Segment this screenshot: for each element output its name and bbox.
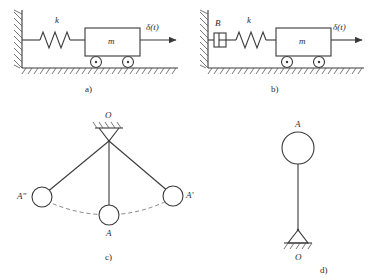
panel-c-bob-right-label: A′: [186, 191, 193, 200]
panel-a-spring-label: k: [55, 16, 59, 25]
panel-b-mass-label: m: [299, 37, 306, 46]
panel-b-force-label: δ(t): [333, 23, 346, 32]
panel-c-pivot-label: O: [105, 111, 112, 120]
panel-b-drawing: [200, 10, 364, 74]
panel-d-caption: d): [320, 266, 328, 275]
panel-b-caption: b): [271, 85, 279, 94]
panel-b-wheels: [282, 57, 325, 68]
panel-a-ground-hatching: [22, 68, 176, 74]
panel-d-drawing: [282, 132, 314, 249]
panel-b-damper-label: B: [215, 19, 221, 28]
panel-a-force-label: δ(t): [146, 23, 159, 32]
panel-c-bob-center-label: A: [106, 229, 112, 238]
panel-c-bob-right: [163, 186, 183, 206]
panel-a-drawing: [14, 10, 178, 74]
panel-a-spring: [22, 32, 85, 48]
panel-c-ceiling-hatching: [93, 122, 123, 128]
panel-b-ground-hatching: [208, 68, 362, 74]
panel-d-ground-hatching: [284, 243, 312, 249]
panel-a-mass-label: m: [108, 37, 115, 46]
mechanical-systems-figure: k m δ(t) a) B k m δ(t) b) O A″ A A′ c) A…: [0, 0, 372, 280]
panel-a-wheels: [91, 57, 134, 68]
panel-b-wall-hatching: [200, 10, 208, 68]
panel-c-bob-left-label: A″: [17, 192, 26, 201]
panel-c-rod-left: [46, 141, 109, 193]
panel-a-wall-hatching: [14, 10, 22, 68]
panel-b-spring-label: k: [247, 16, 251, 25]
panel-c-rod-right: [109, 141, 169, 192]
panel-c-bob-center: [99, 205, 119, 225]
panel-b-damper: [208, 33, 236, 47]
panel-c-bob-left: [32, 187, 52, 207]
panel-d-pivot-support: [288, 230, 308, 243]
panel-b-spring: [236, 32, 276, 48]
panel-c-caption: c): [105, 253, 112, 262]
panel-d-bob-label: A: [295, 120, 301, 129]
panel-c-drawing: [32, 122, 183, 225]
figure-canvas: [0, 0, 372, 280]
panel-a-caption: a): [85, 85, 92, 94]
panel-d-pivot-label: O: [295, 253, 302, 262]
panel-d-bob: [282, 132, 314, 164]
panel-c-pivot-support: [99, 128, 119, 141]
